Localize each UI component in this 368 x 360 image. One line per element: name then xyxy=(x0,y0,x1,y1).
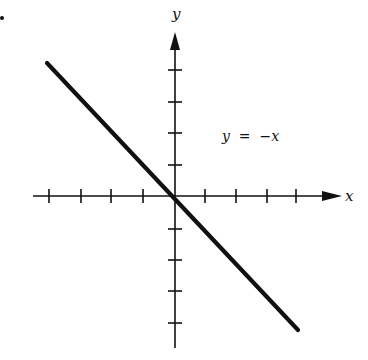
y-axis-label: y xyxy=(172,5,180,23)
x-axis-label: x xyxy=(345,187,353,205)
x-axis-arrow-icon xyxy=(322,191,342,201)
equation-label: y = −x xyxy=(222,128,279,144)
figure: x y y = −x xyxy=(0,0,368,360)
coordinate-plot xyxy=(0,0,368,360)
y-axis-arrow-icon xyxy=(170,32,180,50)
